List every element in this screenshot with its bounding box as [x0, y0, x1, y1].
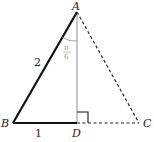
label-d: D — [71, 127, 81, 140]
segment-ab — [13, 12, 77, 123]
triangle-diagram: π 6 A B C D 2 1 — [0, 0, 154, 142]
side-label-ab: 2 — [34, 56, 41, 69]
angle-numerator: π — [64, 44, 69, 52]
label-a: A — [71, 0, 80, 13]
label-b: B — [0, 117, 9, 130]
angle-arc — [63, 38, 78, 42]
label-c: C — [143, 117, 152, 130]
right-angle-marker — [77, 112, 88, 123]
side-label-bd: 1 — [35, 127, 42, 140]
angle-denominator: 6 — [64, 53, 69, 61]
segment-ac — [77, 12, 139, 123]
